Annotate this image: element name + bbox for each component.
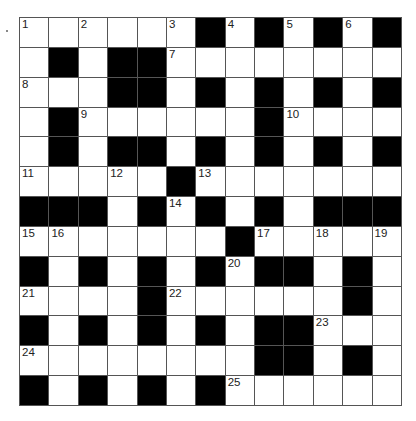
answer-cell[interactable] [79, 78, 107, 107]
answer-cell[interactable]: 6 [343, 18, 371, 47]
answer-cell[interactable] [373, 287, 401, 316]
answer-cell[interactable] [138, 227, 166, 256]
answer-cell[interactable] [79, 287, 107, 316]
answer-cell[interactable] [167, 346, 195, 375]
answer-cell[interactable]: 1 [20, 18, 48, 47]
answer-cell[interactable] [255, 376, 283, 405]
answer-cell[interactable] [167, 376, 195, 405]
answer-cell[interactable] [314, 167, 342, 196]
answer-cell[interactable]: 13 [196, 167, 224, 196]
answer-cell[interactable] [167, 108, 195, 137]
answer-cell[interactable] [314, 48, 342, 77]
answer-cell[interactable] [255, 287, 283, 316]
answer-cell[interactable]: 24 [20, 346, 48, 375]
answer-cell[interactable] [314, 287, 342, 316]
answer-cell[interactable]: 4 [226, 18, 254, 47]
answer-cell[interactable] [49, 78, 77, 107]
answer-cell[interactable] [226, 287, 254, 316]
answer-cell[interactable] [196, 287, 224, 316]
answer-cell[interactable] [108, 316, 136, 345]
answer-cell[interactable] [373, 48, 401, 77]
answer-cell[interactable] [49, 18, 77, 47]
answer-cell[interactable] [196, 346, 224, 375]
answer-cell[interactable] [49, 316, 77, 345]
answer-cell[interactable] [314, 257, 342, 286]
answer-cell[interactable] [49, 167, 77, 196]
answer-cell[interactable]: 17 [255, 227, 283, 256]
answer-cell[interactable] [196, 48, 224, 77]
answer-cell[interactable] [373, 316, 401, 345]
answer-cell[interactable] [373, 108, 401, 137]
answer-cell[interactable] [373, 376, 401, 405]
answer-cell[interactable] [167, 316, 195, 345]
answer-cell[interactable] [284, 227, 312, 256]
answer-cell[interactable] [226, 167, 254, 196]
answer-cell[interactable] [343, 376, 371, 405]
answer-cell[interactable] [343, 78, 371, 107]
answer-cell[interactable] [167, 78, 195, 107]
answer-cell[interactable] [79, 48, 107, 77]
answer-cell[interactable] [255, 48, 283, 77]
answer-cell[interactable]: 14 [167, 197, 195, 226]
answer-cell[interactable] [108, 227, 136, 256]
answer-cell[interactable]: 9 [79, 108, 107, 137]
answer-cell[interactable] [167, 137, 195, 166]
answer-cell[interactable] [373, 346, 401, 375]
answer-cell[interactable]: 18 [314, 227, 342, 256]
answer-cell[interactable] [255, 167, 283, 196]
answer-cell[interactable] [138, 108, 166, 137]
answer-cell[interactable] [167, 227, 195, 256]
answer-cell[interactable]: 16 [49, 227, 77, 256]
answer-cell[interactable] [226, 137, 254, 166]
answer-cell[interactable] [49, 376, 77, 405]
answer-cell[interactable] [284, 137, 312, 166]
answer-cell[interactable]: 21 [20, 287, 48, 316]
answer-cell[interactable] [226, 197, 254, 226]
answer-cell[interactable] [373, 257, 401, 286]
answer-cell[interactable] [226, 346, 254, 375]
answer-cell[interactable] [79, 227, 107, 256]
answer-cell[interactable] [138, 167, 166, 196]
answer-cell[interactable] [108, 346, 136, 375]
answer-cell[interactable] [108, 376, 136, 405]
answer-cell[interactable] [284, 287, 312, 316]
answer-cell[interactable] [373, 167, 401, 196]
answer-cell[interactable]: 23 [314, 316, 342, 345]
answer-cell[interactable] [284, 376, 312, 405]
answer-cell[interactable] [108, 18, 136, 47]
answer-cell[interactable] [343, 137, 371, 166]
answer-cell[interactable] [226, 48, 254, 77]
answer-cell[interactable]: 22 [167, 287, 195, 316]
answer-cell[interactable]: 2 [79, 18, 107, 47]
answer-cell[interactable] [284, 167, 312, 196]
answer-cell[interactable] [343, 316, 371, 345]
answer-cell[interactable] [79, 167, 107, 196]
answer-cell[interactable] [20, 137, 48, 166]
answer-cell[interactable] [343, 48, 371, 77]
answer-cell[interactable] [108, 287, 136, 316]
answer-cell[interactable] [49, 257, 77, 286]
answer-cell[interactable]: 19 [373, 227, 401, 256]
answer-cell[interactable] [284, 78, 312, 107]
answer-cell[interactable] [226, 316, 254, 345]
answer-cell[interactable] [79, 346, 107, 375]
answer-cell[interactable] [196, 227, 224, 256]
answer-cell[interactable] [20, 108, 48, 137]
answer-cell[interactable] [108, 257, 136, 286]
answer-cell[interactable]: 15 [20, 227, 48, 256]
answer-cell[interactable] [343, 167, 371, 196]
answer-cell[interactable] [108, 108, 136, 137]
answer-cell[interactable] [79, 137, 107, 166]
answer-cell[interactable]: 5 [284, 18, 312, 47]
answer-cell[interactable] [343, 227, 371, 256]
answer-cell[interactable] [49, 346, 77, 375]
answer-cell[interactable] [226, 78, 254, 107]
answer-cell[interactable] [284, 197, 312, 226]
answer-cell[interactable]: 11 [20, 167, 48, 196]
answer-cell[interactable]: 12 [108, 167, 136, 196]
answer-cell[interactable] [167, 257, 195, 286]
answer-cell[interactable] [314, 376, 342, 405]
answer-cell[interactable] [138, 18, 166, 47]
answer-cell[interactable] [343, 108, 371, 137]
answer-cell[interactable]: 25 [226, 376, 254, 405]
